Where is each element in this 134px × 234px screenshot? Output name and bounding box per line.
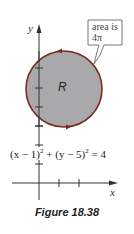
callout-text-line2: 4π xyxy=(92,32,102,43)
x-axis-label: x xyxy=(110,186,115,198)
figure-diagram xyxy=(0,0,134,234)
y-axis-arrow-icon xyxy=(37,24,42,33)
circle-equation: (x − 1)2 + (y − 5)2 = 4 xyxy=(10,147,106,160)
equation-term-y: + (y − 5) xyxy=(44,148,86,160)
equation-rhs: = 4 xyxy=(89,148,106,160)
x-axis xyxy=(12,179,118,187)
figure-caption: Figure 18.38 xyxy=(0,206,134,218)
equation-term-x: (x − 1) xyxy=(10,148,40,160)
x-axis-arrow-icon xyxy=(109,181,118,186)
y-axis-label: y xyxy=(28,22,33,34)
region-label: R xyxy=(58,80,67,94)
callout-text-line1: area is xyxy=(92,21,118,32)
